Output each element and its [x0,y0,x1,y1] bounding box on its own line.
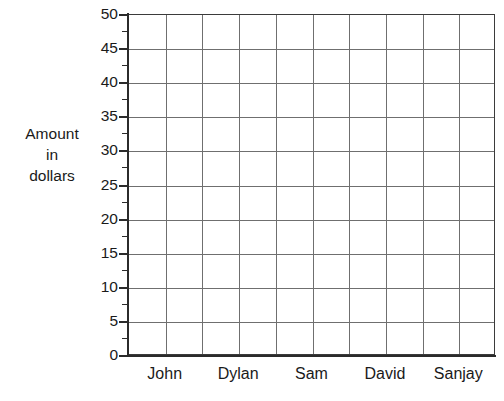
y-axis-tick-label: 35 [74,108,118,124]
x-axis-tick-labels: JohnDylanSamDavidSanjay [0,363,504,393]
gridline-horizontal [129,322,494,323]
y-axis-tick-label: 40 [74,74,118,90]
gridline-vertical [423,15,424,354]
y-axis-tick-label: 5 [74,313,118,329]
gridline-vertical [276,15,277,354]
gridline-vertical [202,15,203,354]
gridline-horizontal [129,83,494,84]
y-axis-tick-label: 45 [74,40,118,56]
gridline-horizontal [129,254,494,255]
x-axis-tick-label: Sanjay [398,363,504,385]
gridline-horizontal [129,186,494,187]
x-axis-line [127,355,496,357]
y-axis-tick-label: 20 [74,211,118,227]
y-axis-tick-label: 50 [74,6,118,22]
gridline-vertical [386,15,387,354]
chart-plot-area [128,14,495,355]
y-axis-line [127,13,129,356]
y-axis-tick-label: 10 [74,279,118,295]
y-axis-tick-label: 30 [74,142,118,158]
y-axis-tick-labels: 05101520253035404550 [74,0,118,401]
gridline-vertical [166,15,167,354]
y-axis-tick-label: 0 [74,347,118,363]
gridline-vertical [349,15,350,354]
gridline-horizontal [129,49,494,50]
y-axis-tick-label: 25 [74,177,118,193]
gridline-horizontal [129,151,494,152]
gridline-vertical [459,15,460,354]
y-axis-tick-label: 15 [74,245,118,261]
gridline-vertical [239,15,240,354]
gridline-vertical [313,15,314,354]
gridline-horizontal [129,288,494,289]
gridline-horizontal [129,220,494,221]
gridline-horizontal [129,117,494,118]
